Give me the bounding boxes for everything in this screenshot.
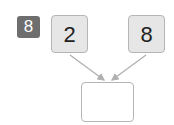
answer-box[interactable] (81, 82, 134, 122)
